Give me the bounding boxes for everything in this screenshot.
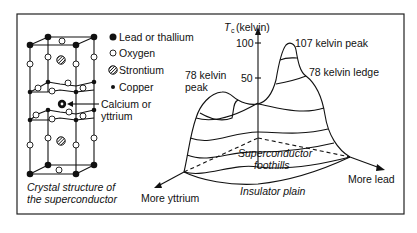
oxygen-atom	[73, 61, 79, 67]
copper-atom	[46, 80, 51, 85]
oxygen-atom	[80, 85, 86, 91]
direction-yttrium: More yttrium	[141, 192, 200, 204]
lead-atom	[73, 171, 80, 178]
lead-atom	[91, 162, 98, 169]
calcium-label-1: Calcium or	[101, 98, 152, 110]
legend-copper: Copper	[119, 81, 154, 93]
lead-atom	[45, 34, 52, 41]
tick-100: 100	[236, 37, 254, 49]
crystal-caption-1: Crystal structure of	[27, 181, 116, 193]
strontium-atom	[57, 56, 65, 64]
legend-oxygen: Oxygen	[119, 47, 155, 59]
superconductor-diagram: Lead or thallium Oxygen Strontium Copper…	[0, 0, 417, 233]
oxygen-atom	[56, 167, 62, 173]
lead-atom	[27, 171, 34, 178]
oxygen-atom	[65, 80, 71, 86]
oxygen-atom	[66, 109, 72, 115]
oxygen-atom	[45, 54, 51, 60]
arrow-yttrium-icon	[154, 182, 162, 188]
strontium-legend-icon	[109, 66, 117, 74]
oxygen-atom	[35, 85, 41, 91]
oxygen-atom	[33, 112, 39, 118]
copper-atom	[74, 90, 79, 95]
oxygen-atom	[91, 54, 97, 60]
oxygen-atom	[27, 61, 33, 67]
oxygen-atom	[59, 38, 65, 44]
oxygen-atom	[80, 113, 86, 119]
legend-strontium: Strontium	[119, 64, 164, 76]
annotation-plain: Insulator plain	[240, 185, 306, 197]
legend: Lead or thallium Oxygen Strontium Copper…	[101, 31, 194, 122]
oxygen-atom	[49, 88, 55, 94]
annotation-foothills-2: foothills	[254, 159, 290, 171]
copper-atom	[28, 90, 33, 95]
lead-atom	[91, 34, 98, 41]
crystal-caption-2: the superconductor	[27, 193, 117, 205]
arrow-lead-icon	[376, 164, 385, 171]
legend-lead: Lead or thallium	[119, 31, 194, 43]
oxygen-atom	[73, 142, 79, 148]
tc-axis-label-unit: (kelvin)	[236, 21, 270, 33]
lead-atom	[73, 42, 80, 49]
annotation-107-peak: 107 kelvin peak	[295, 37, 369, 49]
copper-atom	[28, 118, 33, 123]
lead-atom	[27, 42, 34, 49]
annotation-foothills-1: Superconductor	[238, 147, 313, 159]
tc-axis-label-sub: c	[231, 27, 235, 34]
oxygen-atom	[49, 116, 55, 122]
annotation-78-peak-1: 78 kelvin	[185, 69, 227, 81]
crystal-atoms	[27, 34, 98, 178]
strontium-atom	[57, 137, 65, 145]
annotation-78-ledge: 78 kelvin ledge	[309, 66, 379, 78]
copper-atom	[92, 80, 97, 85]
tick-50: 50	[241, 72, 253, 84]
oxygen-atom	[45, 135, 51, 141]
oxygen-atom	[91, 135, 97, 141]
lead-atom	[45, 162, 52, 169]
annotation-78-peak-2: peak	[185, 81, 209, 93]
copper-atom	[92, 108, 97, 113]
oxygen-atom	[27, 142, 33, 148]
copper-atom	[74, 118, 79, 123]
copper-legend-icon	[111, 85, 115, 89]
direction-lead: More lead	[348, 173, 395, 185]
oxygen-legend-icon	[110, 50, 116, 56]
copper-atom	[46, 108, 51, 113]
calcium-label-2: yttrium	[101, 110, 133, 122]
lead-legend-icon	[110, 34, 117, 41]
